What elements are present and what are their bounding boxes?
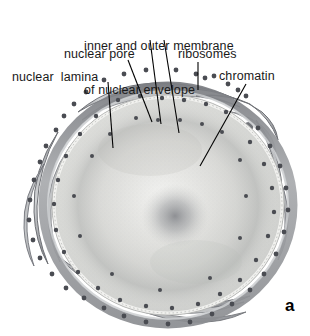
label-ribosomes: ribosomes	[178, 47, 237, 62]
label-nuclear-lamina: nuclear lamina	[12, 70, 98, 85]
label-inner-and-outer-membrane: inner and outer membrane of nuclear enve…	[84, 10, 234, 126]
nucleolus	[141, 184, 209, 248]
nucleus-figure: inner and outer membrane of nuclear enve…	[0, 0, 310, 336]
label-nuclear-pore: nuclear pore	[64, 47, 135, 62]
label-chromatin: chromatin	[219, 69, 275, 84]
panel-letter: a	[285, 296, 294, 316]
label-membrane-line2: of nuclear envelope	[84, 83, 234, 98]
